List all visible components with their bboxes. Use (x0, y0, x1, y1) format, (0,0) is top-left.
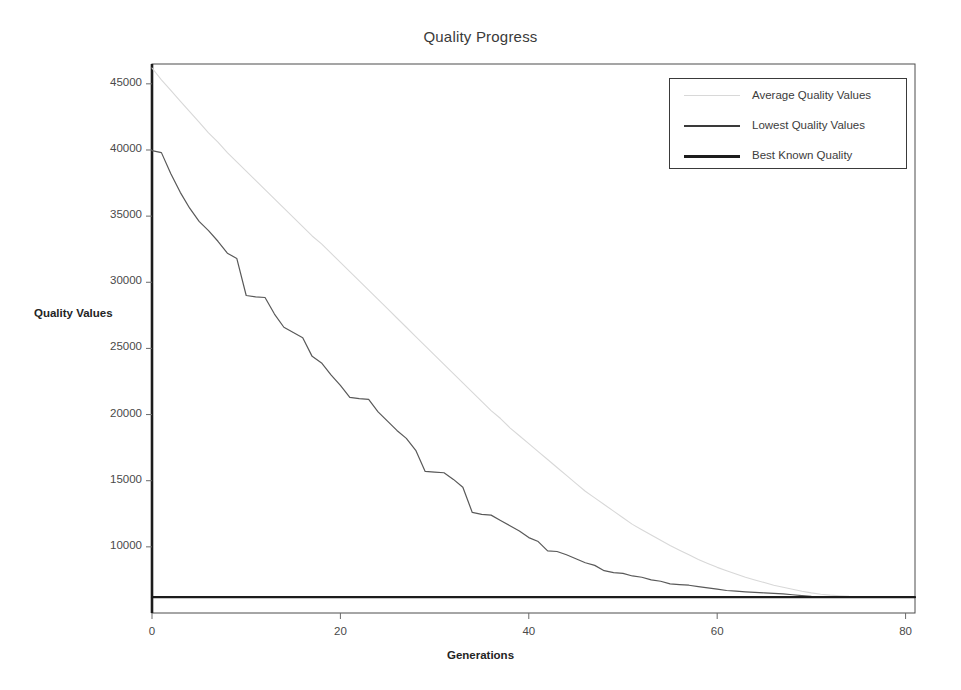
x-tick-label: 40 (509, 625, 549, 637)
y-tick-label: 35000 (82, 208, 142, 220)
y-tick-label: 20000 (82, 407, 142, 419)
x-tick-label: 0 (132, 625, 172, 637)
x-tick-label: 80 (886, 625, 926, 637)
y-tick-label: 40000 (82, 142, 142, 154)
x-tick-label: 20 (320, 625, 360, 637)
legend-label: Best Known Quality (752, 149, 852, 161)
x-tick-label: 60 (697, 625, 737, 637)
legend-item[interactable]: Lowest Quality Values (670, 110, 908, 140)
y-tick-label: 10000 (82, 539, 142, 551)
legend-line-icon (684, 148, 740, 162)
y-tick-label: 15000 (82, 473, 142, 485)
legend-line-icon (684, 118, 740, 132)
legend-label: Lowest Quality Values (752, 119, 865, 131)
y-tick-label: 30000 (82, 274, 142, 286)
legend-label: Average Quality Values (752, 89, 871, 101)
chart-legend: Average Quality ValuesLowest Quality Val… (669, 78, 907, 169)
legend-item[interactable]: Best Known Quality (670, 140, 908, 170)
quality-progress-chart: Quality Progress Quality Values Generati… (0, 0, 961, 690)
series-line-2 (152, 151, 915, 597)
legend-line-icon (684, 88, 740, 102)
y-tick-label: 45000 (82, 76, 142, 88)
y-tick-label: 25000 (82, 340, 142, 352)
legend-item[interactable]: Average Quality Values (670, 80, 908, 110)
